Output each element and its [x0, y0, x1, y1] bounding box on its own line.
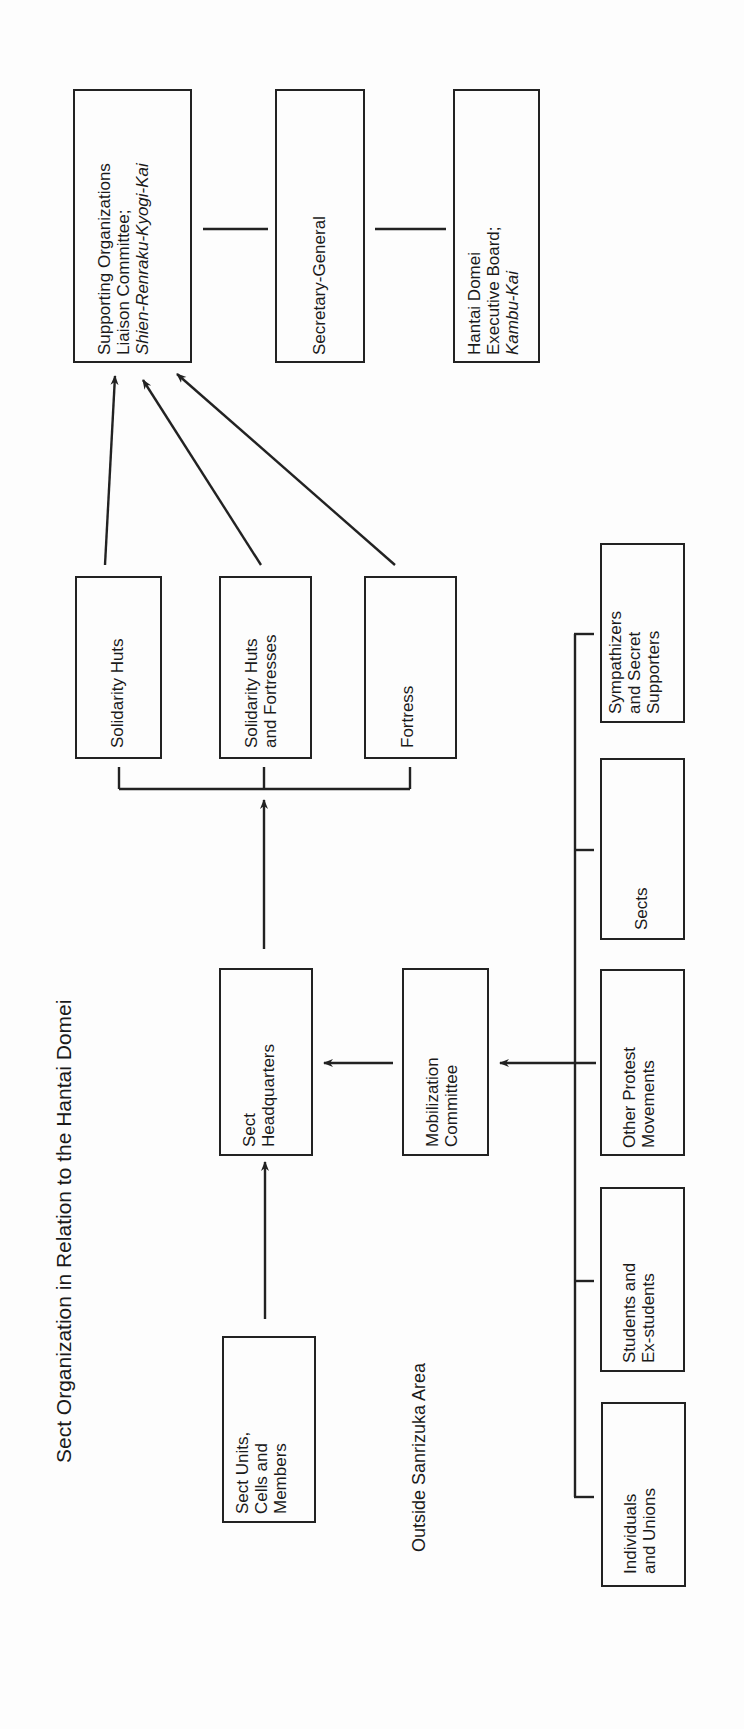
label-line: Cells and — [252, 1432, 271, 1514]
label-line: Committee — [442, 1057, 461, 1147]
title-text: Sect Organization in Relation to the Han… — [52, 1000, 76, 1463]
sects-label: Sects — [632, 887, 651, 930]
label-line: Hantai Domei — [465, 226, 484, 355]
other-protest-label: Other Protest Movements — [620, 1047, 658, 1148]
label-line: Other Protest — [620, 1047, 639, 1148]
supporting-organizations-label: Supporting Organizations Liaison Committ… — [95, 163, 152, 355]
label-line: Ex-students — [639, 1263, 658, 1363]
area-label-text: Outside Sanrizuka Area — [409, 1363, 429, 1552]
sect-headquarters-label: Sect Headquarters — [240, 1044, 278, 1147]
solidarity-huts-fortresses-label: Solidarity Huts and Fortresses — [242, 635, 280, 748]
sympathizers-label: Sympathizers and Secret Supporters — [606, 611, 663, 714]
label-line-italic: Kambu-Kai — [503, 226, 522, 355]
label-line: Executive Board; — [484, 226, 503, 355]
label-line: Sects — [632, 887, 651, 930]
label-line: Solidarity Huts — [242, 635, 261, 748]
org-diagram: Sect Organization in Relation to the Han… — [0, 0, 744, 1729]
label-line: Supporters — [644, 611, 663, 714]
label-line: Fortress — [398, 686, 417, 748]
secretary-general-label: Secretary-General — [310, 216, 329, 355]
individuals-label: Individuals and Unions — [621, 1488, 659, 1574]
label-line: Liaison Committee; — [114, 163, 133, 355]
label-line: Members — [271, 1432, 290, 1514]
solidarity-huts-label: Solidarity Huts — [108, 638, 127, 748]
label-line: Solidarity Huts — [108, 638, 127, 748]
students-label: Students and Ex-students — [620, 1263, 658, 1363]
label-line: Sect — [240, 1044, 259, 1147]
label-line: and Unions — [640, 1488, 659, 1574]
hantai-domei-board-label: Hantai Domei Executive Board; Kambu-Kai — [465, 226, 522, 355]
label-line: Sect Units, — [233, 1432, 252, 1514]
fortress-label: Fortress — [398, 686, 417, 748]
label-line-italic: Shien-Renraku-Kyogi-Kai — [133, 163, 152, 355]
label-line: Students and — [620, 1263, 639, 1363]
sect-units-label: Sect Units, Cells and Members — [233, 1432, 290, 1514]
label-line: Individuals — [621, 1488, 640, 1574]
label-line: and Fortresses — [261, 635, 280, 748]
mobilization-committee-label: Mobilization Committee — [423, 1057, 461, 1147]
label-line: Secretary-General — [310, 216, 329, 355]
label-line: Headquarters — [259, 1044, 278, 1147]
label-line: and Secret — [625, 611, 644, 714]
label-line: Sympathizers — [606, 611, 625, 714]
label-line: Movements — [639, 1047, 658, 1148]
label-line: Mobilization — [423, 1057, 442, 1147]
diagram-title: Sect Organization in Relation to the Han… — [52, 1000, 76, 1463]
label-line: Supporting Organizations — [95, 163, 114, 355]
area-label: Outside Sanrizuka Area — [409, 1363, 429, 1552]
